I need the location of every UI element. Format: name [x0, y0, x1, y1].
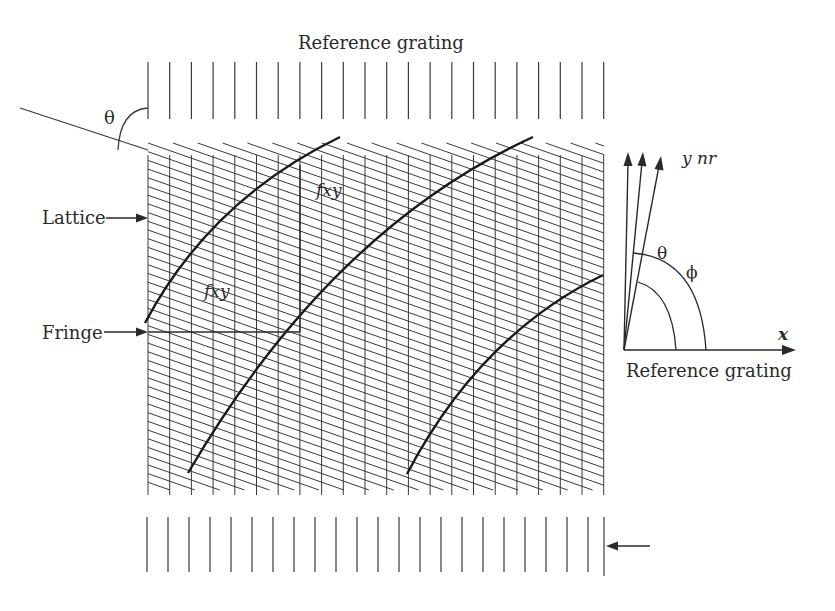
- lattice-slant: [148, 195, 604, 355]
- lattice-slant: [148, 178, 604, 338]
- axis-y-label: y nr: [681, 148, 717, 168]
- theta-arc: [118, 108, 148, 150]
- lattice-slant: [148, 352, 543, 490]
- lattice-fringe-diagram: Reference grating θ Lattice Fringe fxy f…: [0, 0, 835, 611]
- axis-diagram: [624, 152, 797, 355]
- theta-angle-arc: [638, 282, 676, 350]
- bottom-reference-grating: [147, 517, 604, 576]
- lattice-slant: [148, 239, 604, 399]
- lattice-slant: [148, 369, 493, 490]
- bottom-grating-arrow-head: [606, 542, 618, 551]
- lattice-slant: [148, 169, 604, 329]
- lattice-slant: [148, 430, 319, 490]
- lattice-arrow-head: [136, 214, 148, 223]
- top-reference-grating: [148, 62, 604, 119]
- top-grating-title: Reference grating: [298, 32, 464, 53]
- lattice-slant: [148, 474, 195, 490]
- lattice-slant: [595, 143, 604, 146]
- fringe-curve-2: [188, 137, 533, 473]
- axis-x-label: x: [777, 324, 789, 344]
- vector-2-arrowhead: [638, 152, 647, 167]
- theta-reference-line: [20, 108, 148, 150]
- lattice-slant: [148, 300, 604, 460]
- angle-phi-label: ϕ: [686, 262, 698, 282]
- lattice-slant: [148, 187, 604, 347]
- lattice-slant: [347, 143, 604, 233]
- lattice-slant: [148, 317, 604, 477]
- lattice-slant: [148, 326, 604, 486]
- lattice-slant: [521, 143, 604, 172]
- fringe-arrow-head: [136, 328, 148, 337]
- lattice-slant: [148, 361, 518, 491]
- vector-1-arrowhead: [624, 152, 633, 166]
- lattice-slant: [148, 334, 593, 490]
- fxy-vertical-label: fxy: [314, 180, 342, 200]
- axis-caption: Reference grating: [626, 360, 792, 381]
- lattice-slant: [148, 343, 568, 490]
- lattice-slant: [471, 143, 604, 190]
- theta-top-label: θ: [104, 107, 115, 128]
- fxy-horizontal-label: fxy: [202, 281, 230, 301]
- lattice-slant: [148, 482, 170, 490]
- lattice-slant: [148, 221, 604, 381]
- lattice-slant: [148, 448, 269, 491]
- lattice-slant: [148, 230, 604, 390]
- angle-theta-label: θ: [657, 243, 667, 263]
- lattice-slant: [173, 143, 604, 294]
- x-axis-arrowhead: [782, 345, 796, 355]
- lattice-slant: [421, 143, 604, 207]
- lattice-slant: [372, 143, 604, 224]
- lattice-slant: [148, 421, 344, 490]
- lattice-label: Lattice: [42, 207, 106, 228]
- vector-y-nr-arrowhead: [655, 156, 664, 171]
- lattice-slant: [148, 404, 394, 490]
- lattice-slant: [148, 282, 604, 442]
- lattice-slant: [546, 143, 604, 163]
- lattice-slant: [198, 143, 604, 285]
- lattice-slant: [148, 413, 369, 490]
- lattice-slant: [148, 143, 604, 303]
- lattice-slant: [148, 395, 419, 490]
- fringe-label: Fringe: [42, 322, 103, 343]
- lattice-slant: [148, 387, 443, 490]
- vector-y-nr: [624, 166, 659, 350]
- lattice-slant: [148, 247, 604, 407]
